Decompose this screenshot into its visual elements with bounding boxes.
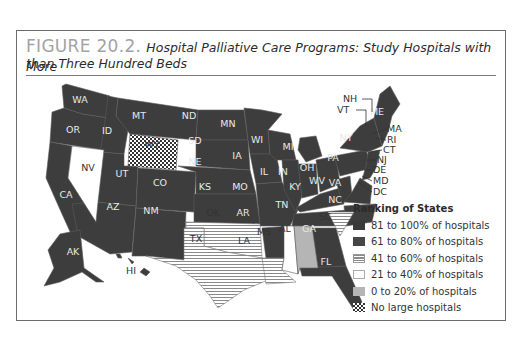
legend-label: 61 to 80% of hospitals xyxy=(371,236,483,247)
label-de: DE xyxy=(373,164,386,175)
label-tn: TN xyxy=(275,199,289,210)
legend-label: 81 to 100% of hospitals xyxy=(371,220,490,231)
label-ia: IA xyxy=(232,150,242,161)
label-ne: NE xyxy=(188,156,201,167)
legend-item-81-100: 81 to 100% of hospitals xyxy=(353,217,503,234)
swatch-checker-icon xyxy=(353,303,365,312)
label-sd: SD xyxy=(188,135,201,146)
state-sd xyxy=(196,140,250,170)
label-dc: DC xyxy=(373,186,387,197)
label-al: AL xyxy=(279,223,291,234)
label-pa: PA xyxy=(327,152,339,163)
label-hi: HI xyxy=(126,265,136,276)
legend-item-21-40: 21 to 40% of hospitals xyxy=(353,267,503,284)
label-ut: UT xyxy=(116,168,129,179)
state-mi xyxy=(298,136,322,162)
legend-label: 21 to 40% of hospitals xyxy=(371,269,483,280)
legend: Ranking of States 81 to 100% of hospital… xyxy=(353,203,503,316)
label-wa: WA xyxy=(72,94,88,105)
label-az: AZ xyxy=(106,201,119,212)
swatch-dark-icon xyxy=(353,237,365,246)
label-tx: TX xyxy=(189,233,203,244)
label-la: LA xyxy=(238,235,251,246)
label-ky: KY xyxy=(289,181,301,192)
label-il: IL xyxy=(260,166,269,177)
label-ga: GA xyxy=(302,223,316,234)
label-md: MD xyxy=(373,175,389,186)
label-ny: NY xyxy=(340,132,353,143)
label-ca: CA xyxy=(59,189,73,200)
legend-label: No large hospitals xyxy=(371,302,461,313)
label-mi: MI xyxy=(283,141,294,152)
legend-item-41-60: 41 to 60% of hospitals xyxy=(353,250,503,267)
label-wy: WY xyxy=(144,139,159,150)
label-co: CO xyxy=(153,177,167,188)
label-ms: MS xyxy=(257,226,271,237)
label-in: IN xyxy=(278,166,288,177)
label-or: OR xyxy=(66,124,80,135)
label-nh: NH xyxy=(343,93,357,104)
legend-label: 0 to 20% of hospitals xyxy=(371,286,477,297)
label-vt: VT xyxy=(337,104,349,115)
label-mo: MO xyxy=(232,181,248,192)
label-mn: MN xyxy=(220,118,235,129)
label-ar: AR xyxy=(236,207,249,218)
label-wv: WV xyxy=(309,175,325,186)
label-oh: OH xyxy=(300,162,315,173)
swatch-stripes-icon xyxy=(353,254,365,263)
label-sc: SC xyxy=(319,211,332,222)
label-mt: MT xyxy=(132,110,146,121)
legend-label: 41 to 60% of hospitals xyxy=(371,253,483,264)
swatch-light-gray-icon xyxy=(353,287,365,296)
label-ks: KS xyxy=(199,181,211,192)
label-ok: OK xyxy=(206,207,220,218)
label-fl: FL xyxy=(321,256,332,267)
swatch-darkest-icon xyxy=(353,221,365,230)
legend-title: Ranking of States xyxy=(353,203,503,214)
state-nm xyxy=(132,208,186,260)
label-ak: AK xyxy=(67,246,80,257)
legend-item-61-80: 61 to 80% of hospitals xyxy=(353,234,503,251)
label-id: ID xyxy=(102,125,112,136)
label-ma: MA xyxy=(387,123,402,134)
label-nd: ND xyxy=(182,110,196,121)
label-nc: NC xyxy=(328,194,342,205)
label-wi: WI xyxy=(251,134,263,145)
swatch-white-icon xyxy=(353,270,365,279)
label-va: VA xyxy=(329,177,342,188)
state-ks xyxy=(194,194,260,224)
label-nv: NV xyxy=(81,162,95,173)
label-nm: NM xyxy=(143,205,158,216)
legend-item-none: No large hospitals xyxy=(353,300,503,317)
legend-item-0-20: 0 to 20% of hospitals xyxy=(353,283,503,300)
